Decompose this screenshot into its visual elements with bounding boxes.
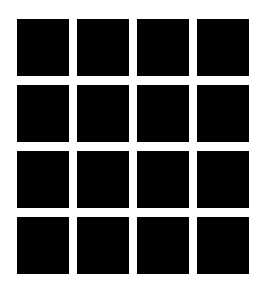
grid-square-r1-c2 bbox=[77, 19, 129, 76]
grid-square-r4-c4 bbox=[197, 217, 249, 274]
grid-square-r3-c3 bbox=[137, 151, 189, 208]
grid-square-r2-c4 bbox=[197, 85, 249, 142]
grid-square-r3-c4 bbox=[197, 151, 249, 208]
grid-square-r1-c4 bbox=[197, 19, 249, 76]
grid-square-r2-c3 bbox=[137, 85, 189, 142]
grid-square-r2-c2 bbox=[77, 85, 129, 142]
grid-square-r2-c1 bbox=[17, 85, 69, 142]
square-grid bbox=[17, 19, 249, 274]
grid-square-r4-c1 bbox=[17, 217, 69, 274]
grid-square-r3-c2 bbox=[77, 151, 129, 208]
grid-square-r1-c1 bbox=[17, 19, 69, 76]
grid-square-r1-c3 bbox=[137, 19, 189, 76]
grid-square-r4-c2 bbox=[77, 217, 129, 274]
grid-square-r4-c3 bbox=[137, 217, 189, 274]
grid-square-r3-c1 bbox=[17, 151, 69, 208]
